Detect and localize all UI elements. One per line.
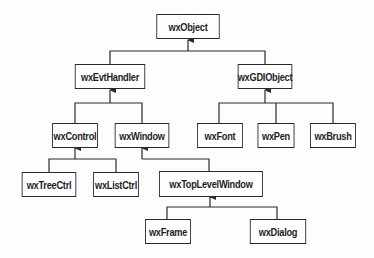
class-node-wxdialog: wxDialog (250, 219, 306, 244)
node-label: wxTreeCtrl (27, 179, 72, 191)
node-label: wxGDIObject (238, 71, 293, 83)
class-node-wxbrush: wxBrush (310, 123, 356, 148)
class-node-wxwindow: wxWindow (115, 123, 170, 148)
node-label: wxWindow (119, 130, 165, 142)
class-node-wxobject: wxObject (156, 14, 219, 39)
node-label: wxTopLevelWindow (169, 178, 252, 190)
class-node-wxpen: wxPen (258, 123, 295, 148)
node-label: wxObject (169, 21, 208, 33)
class-node-wxtreectrl: wxTreeCtrl (22, 172, 77, 197)
class-node-wxframe: wxFrame (145, 219, 191, 244)
node-label: wxEvtHandler (81, 71, 139, 83)
node-label: wxDialog (259, 226, 297, 238)
class-node-wxfont: wxFont (197, 123, 243, 148)
node-label: wxBrush (314, 130, 351, 142)
node-label: wxListCtrl (95, 179, 137, 191)
class-node-wxtoplevelwindow: wxTopLevelWindow (159, 171, 263, 197)
class-node-wxgdiobject: wxGDIObject (238, 64, 293, 89)
class-hierarchy-diagram: wxObject wxEvtHandler wxGDIObject wxCont… (0, 0, 374, 258)
class-node-wxevthandler: wxEvtHandler (75, 64, 145, 89)
node-label: wxControl (54, 130, 97, 142)
node-label: wxPen (262, 130, 290, 142)
class-node-wxlistctrl: wxListCtrl (93, 172, 139, 197)
node-label: wxFont (205, 130, 236, 142)
class-node-wxcontrol: wxControl (52, 123, 98, 148)
node-label: wxFrame (149, 226, 187, 238)
